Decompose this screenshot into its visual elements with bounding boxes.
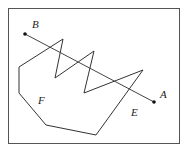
label-a: A — [159, 88, 167, 100]
segment-ab — [25, 34, 154, 102]
diagram-canvas: B A F E — [0, 0, 186, 153]
point-a — [152, 100, 156, 104]
point-b — [23, 32, 27, 36]
label-b: B — [32, 18, 39, 30]
polygon-shape — [19, 39, 143, 135]
label-f: F — [37, 94, 45, 106]
label-e: E — [130, 106, 138, 118]
